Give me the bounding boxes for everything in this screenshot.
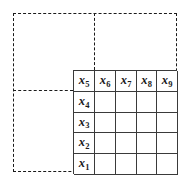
cell-variable-label: x3: [79, 116, 90, 129]
cell-variable-subscript: 9: [168, 79, 172, 89]
cell-variable-label: x9: [162, 74, 173, 87]
cell-variable-label: x1: [79, 157, 90, 170]
cell-variable-label: x4: [79, 95, 90, 108]
grid-cell-r3-c5: [157, 113, 178, 133]
cell-variable-subscript: 7: [127, 79, 131, 89]
dashed-vertical-divider: [94, 13, 95, 70]
cell-variable-label: x5: [79, 74, 90, 87]
grid-cell-r4-c4: [137, 133, 157, 154]
cell-variable-subscript: 8: [148, 79, 152, 89]
cell-variable-subscript: 3: [85, 120, 89, 130]
grid-cell-r5-c1: x1: [74, 154, 95, 175]
figure-canvas: x5x6x7x8x9x4x3x2x1: [0, 0, 189, 185]
grid-cell-r5-c2: [95, 154, 116, 175]
grid-cell-r1-c5: x9: [157, 71, 178, 92]
grid-cell-r1-c3: x7: [116, 71, 137, 92]
cell-variable-subscript: 5: [85, 79, 89, 89]
grid-cell-r5-c4: [137, 154, 157, 175]
cell-variable-subscript: 6: [106, 79, 110, 89]
grid-cell-r2-c4: [137, 92, 157, 113]
grid-cell-r1-c1: x5: [74, 71, 95, 92]
grid-cell-r5-c5: [157, 154, 178, 175]
grid-cell-r4-c2: [95, 133, 116, 154]
grid-cell-r2-c2: [95, 92, 116, 113]
grid-cell-r3-c2: [95, 113, 116, 133]
cell-variable-subscript: 1: [85, 162, 89, 172]
grid-cell-r5-c3: [116, 154, 137, 175]
cell-variable-label: x7: [121, 74, 132, 87]
grid-cell-r3-c3: [116, 113, 137, 133]
grid-cell-r2-c3: [116, 92, 137, 113]
cell-variable-label: x8: [141, 74, 152, 87]
cell-grid: x5x6x7x8x9x4x3x2x1: [73, 70, 177, 174]
grid-cell-r2-c5: [157, 92, 178, 113]
cell-variable-subscript: 2: [85, 141, 89, 151]
grid-cell-r3-c1: x3: [74, 113, 95, 133]
grid-cell-r1-c2: x6: [95, 71, 116, 92]
grid-cell-r4-c5: [157, 133, 178, 154]
grid-cell-r1-c4: x8: [137, 71, 157, 92]
grid-cell-r4-c3: [116, 133, 137, 154]
cell-variable-label: x2: [79, 136, 90, 149]
cell-variable-subscript: 4: [85, 100, 89, 110]
dashed-horizontal-divider: [13, 90, 73, 91]
grid-cell-r4-c1: x2: [74, 133, 95, 154]
grid-cell-r2-c1: x4: [74, 92, 95, 113]
cell-variable-label: x6: [100, 74, 111, 87]
grid-cell-r3-c4: [137, 113, 157, 133]
